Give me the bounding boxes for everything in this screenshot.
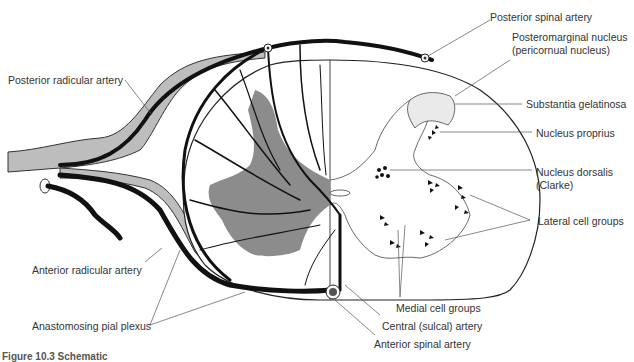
label-nucleus-proprius: Nucleus proprius: [536, 127, 615, 139]
central-canal: [330, 190, 350, 196]
label-anterior-spinal-artery: Anterior spinal artery: [374, 338, 471, 350]
label-nucleus-dorsalis: Nucleus dorsalis: [536, 166, 613, 178]
label-lateral-cell-groups: Lateral cell groups: [538, 215, 624, 227]
label-anterior-radicular-artery: Anterior radicular artery: [32, 264, 142, 276]
label-posteromarginal-nucleus: Posteromarginal nucleus: [512, 31, 628, 43]
label-central-sulcal-artery: Central (sulcal) artery: [382, 320, 482, 332]
label-substantia-gelatinosa: Substantia gelatinosa: [526, 98, 626, 110]
label-posterior-radicular-artery: Posterior radicular artery: [8, 74, 123, 86]
label-anastomosing-pial-plexus: Anastomosing pial plexus: [32, 320, 151, 332]
figure-caption: Figure 10.3 Schematic: [2, 351, 108, 362]
label-posterior-spinal-artery: Posterior spinal artery: [490, 11, 592, 23]
label-medial-cell-groups: Medial cell groups: [396, 302, 481, 314]
label-pericornual-nucleus: (pericornual nucleus): [512, 44, 610, 56]
label-clarke: (Clarke): [536, 179, 573, 191]
